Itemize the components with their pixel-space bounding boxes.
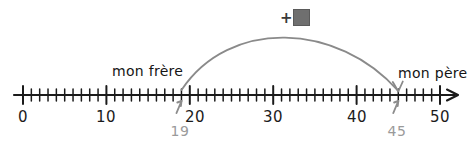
marker-arrow-icon-mon-pere bbox=[393, 101, 398, 113]
axis-tick-label-30: 30 bbox=[263, 110, 283, 125]
marker-value-mon-frere: 19 bbox=[171, 124, 190, 138]
axis-tick-label-10: 10 bbox=[96, 110, 116, 125]
hidden-operand-box[interactable] bbox=[293, 9, 310, 26]
marker-value-mon-pere: 45 bbox=[388, 124, 407, 138]
marker-label-mon-pere: mon père bbox=[398, 66, 468, 80]
jump-arc bbox=[182, 38, 399, 91]
jump-arc-group bbox=[182, 38, 403, 92]
arc-operator-plus: + bbox=[280, 11, 293, 26]
axis-tick-label-50: 50 bbox=[430, 110, 450, 125]
axis-tick-label-0: 0 bbox=[18, 110, 28, 125]
number-line-figure: 0 10 20 30 40 50 19 45 mon frère mon pèr… bbox=[0, 0, 475, 142]
axis-line-group bbox=[14, 90, 458, 101]
marker-label-mon-frere: mon frère bbox=[112, 64, 183, 78]
axis-tick-label-40: 40 bbox=[347, 110, 367, 125]
marker-arrow-icon-mon-frere bbox=[177, 101, 182, 113]
